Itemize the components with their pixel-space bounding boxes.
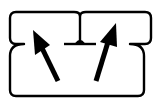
outline-shape <box>10 12 151 96</box>
left-arrow-icon <box>33 30 58 81</box>
diagram-canvas <box>0 0 161 106</box>
right-arrow-icon <box>96 23 117 81</box>
center-foot <box>76 41 84 44</box>
